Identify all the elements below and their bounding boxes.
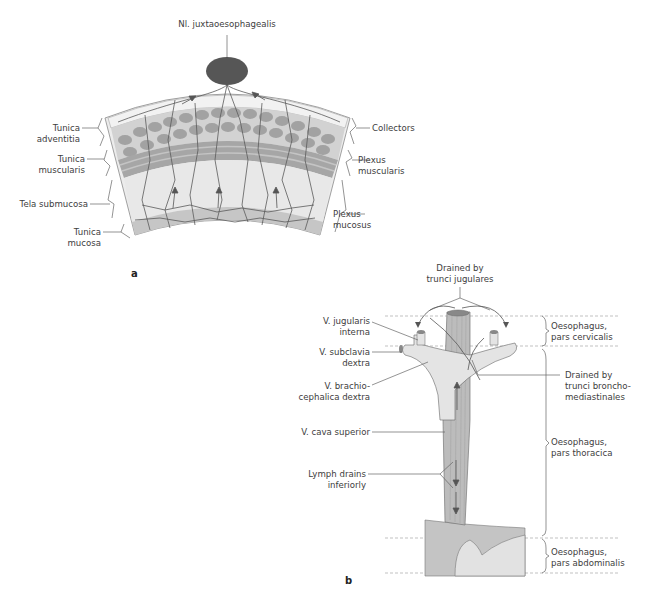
label-line: Drained by (565, 370, 631, 381)
diagram-canvas (0, 0, 655, 606)
label-line: muscularis (358, 166, 405, 177)
label-line: muscularis (10, 165, 85, 176)
panel-label-b: b (345, 575, 352, 586)
label-line: mucosa (40, 238, 101, 249)
label-line: Collectors (372, 123, 415, 134)
label-nl-juxtaoesophagealis: Nl. juxtaoesophagealis (157, 19, 297, 30)
label-line: Plexus (358, 155, 405, 166)
label-tunica-muscularis: Tunica muscularis (10, 154, 85, 176)
label-line: cephalica dextra (290, 392, 370, 403)
label-drained-trunci-bronchomediastinales: Drained by trunci broncho- mediastinales (565, 370, 631, 403)
label-line: Plexus (333, 209, 371, 220)
label-oesophagus-pars-abdominalis: Oesophagus, pars abdominalis (551, 547, 625, 569)
label-line: pars cervicalis (551, 332, 613, 343)
label-line: V. brachio- (290, 381, 370, 392)
label-line: Oesophagus, (551, 321, 613, 332)
label-line: Tunica (10, 123, 80, 134)
label-line: trunci jugulares (400, 274, 520, 285)
label-drained-trunci-jugulares: Drained by trunci jugulares (400, 263, 520, 285)
label-collectors: Collectors (372, 123, 415, 134)
label-oesophagus-pars-cervicalis: Oesophagus, pars cervicalis (551, 321, 613, 343)
label-line: trunci broncho- (565, 381, 631, 392)
label-line: V. subclavia (300, 347, 370, 358)
label-line: pars thoracica (551, 448, 612, 459)
label-line: interna (300, 327, 370, 338)
panel-label-a: a (131, 268, 138, 279)
label-v-cava-superior: V. cava superior (280, 427, 370, 438)
label-line: V. cava superior (280, 427, 370, 438)
label-line: Oesophagus, (551, 437, 612, 448)
label-line: mediastinales (565, 392, 631, 403)
label-oesophagus-pars-thoracica: Oesophagus, pars thoracica (551, 437, 612, 459)
label-v-jugularis-interna: V. jugularis interna (300, 316, 370, 338)
label-line: mucosus (333, 220, 371, 231)
label-line: Drained by (400, 263, 520, 274)
label-plexus-muscularis: Plexus muscularis (358, 155, 405, 177)
label-line: Oesophagus, (551, 547, 625, 558)
label-line: dextra (300, 358, 370, 369)
label-line: adventitia (10, 134, 80, 145)
label-line: pars abdominalis (551, 558, 625, 569)
label-tunica-adventitia: Tunica adventitia (10, 123, 80, 145)
lymph-node-icon (206, 57, 248, 85)
label-line: inferiorly (290, 480, 366, 491)
label-tela-submucosa: Tela submucosa (10, 199, 88, 210)
label-line: Tela submucosa (10, 199, 88, 210)
label-tunica-mucosa: Tunica mucosa (40, 227, 101, 249)
label-line: Lymph drains (290, 469, 366, 480)
label-line: Tunica (10, 154, 85, 165)
panel-a-illustration (82, 35, 370, 238)
label-v-subclavia-dextra: V. subclavia dextra (300, 347, 370, 369)
label-line: Tunica (40, 227, 101, 238)
label-line: V. jugularis (300, 316, 370, 327)
label-lymph-drains-inferiorly: Lymph drains inferiorly (290, 469, 366, 491)
label-plexus-mucosus: Plexus mucosus (333, 209, 371, 231)
label-v-brachiocephalica-dextra: V. brachio- cephalica dextra (290, 381, 370, 403)
